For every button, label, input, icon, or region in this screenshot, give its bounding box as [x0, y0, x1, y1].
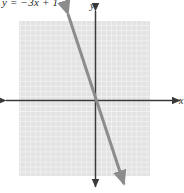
equation-label: y = −3x + 1	[2, 0, 58, 8]
graph-figure: y = −3x + 1 y x	[0, 0, 184, 193]
coordinate-plane-svg	[0, 0, 184, 193]
x-axis-label: x	[179, 96, 183, 106]
grid-background	[19, 21, 150, 176]
y-axis-label: y	[90, 1, 94, 11]
